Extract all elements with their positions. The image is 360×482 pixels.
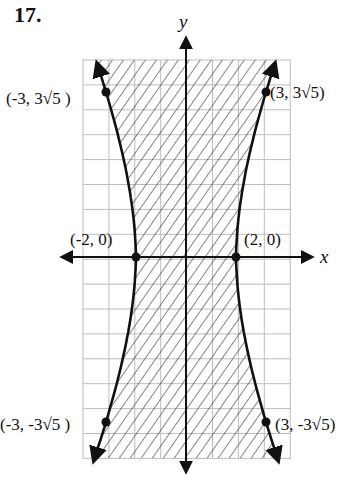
point-label-bottom-right: (3, -3√5) [275,415,335,434]
point-marker [232,253,241,262]
x-axis-label: x [319,246,329,267]
y-axis-label: y [177,11,188,32]
point-label-vertex-right: (2, 0) [244,230,281,249]
point-marker [132,253,141,262]
point-label-top-right: (3, 3√5) [270,83,325,102]
point-marker [101,87,110,96]
point-marker [262,418,271,427]
point-marker [101,418,110,427]
point-label-bottom-left: (-3, -3√5 ) [0,415,70,434]
point-label-vertex-left: (-2, 0) [70,230,112,249]
point-label-top-left: (-3, 3√5 ) [6,89,71,108]
hyperbola-graph: y x (-3, 3√5 ) (3, 3√5) (-2, 0) (2, 0) (… [0,0,360,482]
